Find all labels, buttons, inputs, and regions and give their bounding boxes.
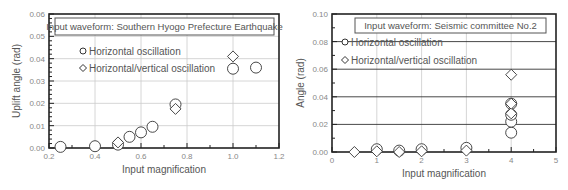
y-tick-label: 0.04	[312, 93, 328, 102]
legend-label: Horizontal oscillation	[89, 46, 181, 57]
x-axis-label: Input magnification	[402, 168, 486, 179]
data-point-circle	[251, 62, 262, 73]
data-point-circle	[136, 127, 147, 138]
legend-label: Horizontal oscillation	[351, 37, 443, 48]
x-tick-label: 0.4	[89, 152, 101, 161]
chart-title: Input waveform: Seismic committee No.2	[364, 20, 537, 31]
diamond-marker-icon	[80, 65, 87, 72]
data-point-diamond	[506, 69, 517, 80]
y-tick-label: 0.00	[29, 144, 45, 153]
y-tick-label: 0.00	[312, 148, 328, 157]
circle-marker-icon	[80, 48, 86, 54]
x-tick-label: 5	[554, 156, 559, 165]
data-point-diamond	[349, 147, 360, 158]
y-tick-label: 0.01	[29, 122, 45, 131]
data-point-circle	[228, 63, 239, 74]
data-point-circle	[124, 131, 135, 142]
x-axis-label: Input magnification	[122, 164, 206, 175]
chart-title: Input waveform: Southern Hyogo Prefectur…	[46, 21, 283, 32]
diamond-marker-icon	[342, 57, 349, 64]
x-tick-label: 0	[330, 156, 335, 165]
y-tick-label: 0.04	[29, 55, 45, 64]
x-tick-label: 2	[419, 156, 424, 165]
data-point-circle	[147, 121, 158, 132]
y-tick-label: 0.05	[29, 32, 45, 41]
y-tick-label: 0.10	[312, 10, 328, 19]
legend-label: Horizontal/vertical oscillation	[351, 55, 477, 66]
x-tick-label: 0.2	[43, 152, 55, 161]
y-tick-label: 0.03	[29, 77, 45, 86]
y-tick-label: 0.06	[29, 10, 45, 19]
x-tick-label: 3	[464, 156, 469, 165]
data-point-circle	[90, 141, 101, 152]
chart-left: 0.20.40.60.81.01.20.000.010.020.030.040.…	[0, 0, 290, 190]
data-point-circle	[55, 141, 66, 152]
y-axis-label: Uplift angle (rad)	[11, 44, 22, 118]
chart-right: 0123450.000.020.040.060.080.10Input magn…	[280, 0, 568, 190]
legend-item: Horizontal/vertical oscillation	[80, 63, 216, 74]
x-tick-label: 4	[509, 156, 514, 165]
y-tick-label: 0.08	[312, 38, 328, 47]
x-tick-label: 0.8	[181, 152, 193, 161]
y-tick-label: 0.06	[312, 65, 328, 74]
x-tick-label: 1.0	[227, 152, 239, 161]
y-tick-label: 0.02	[29, 99, 45, 108]
y-tick-label: 0.02	[312, 120, 328, 129]
legend-item: Horizontal oscillation	[342, 37, 443, 48]
legend-label: Horizontal/vertical oscillation	[89, 63, 215, 74]
x-tick-label: 0.6	[135, 152, 147, 161]
circle-marker-icon	[342, 39, 348, 45]
y-axis-label: Angle (rad)	[295, 58, 306, 107]
legend-item: Horizontal/vertical oscillation	[342, 55, 478, 66]
data-point-diamond	[228, 51, 239, 62]
x-tick-label: 1	[375, 156, 380, 165]
legend-item: Horizontal oscillation	[80, 46, 181, 57]
plot-frame	[332, 14, 556, 152]
data-point-circle	[506, 127, 517, 138]
